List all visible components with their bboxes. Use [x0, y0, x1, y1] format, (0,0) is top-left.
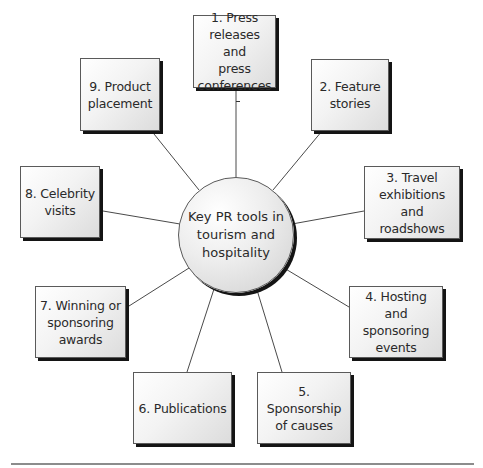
connector-4: [284, 268, 349, 307]
connector-tick-mark: [236, 101, 240, 102]
node-celebrity-visits: 8. Celebrity visits: [20, 166, 100, 238]
connector-5: [257, 290, 282, 372]
connector-2: [273, 131, 322, 190]
node-sponsorship-causes: 5. Sponsorship of causes: [257, 372, 351, 444]
node-publications: 6. Publications: [133, 372, 232, 444]
node-feature-stories: 2. Feature stories: [311, 59, 389, 131]
connector-3: [292, 211, 364, 224]
connector-6: [187, 289, 214, 372]
node-product-placement: 9. Product placement: [80, 58, 160, 131]
node-hosting-events: 4. Hosting and sponsoring events: [349, 286, 443, 358]
center-hub: Key PR tools in tourism and hospitality: [178, 177, 294, 293]
node-winning-awards: 7. Winning or sponsoring awards: [35, 286, 126, 358]
node-travel-exhibitions: 3. Travel exhibitions and roadshows: [364, 166, 460, 239]
connector-8: [103, 211, 180, 224]
connector-9: [154, 134, 199, 190]
node-press-releases: 1. Press releases and press conferences: [193, 15, 276, 88]
connector-7: [129, 268, 189, 306]
bottom-rule: [11, 463, 474, 465]
